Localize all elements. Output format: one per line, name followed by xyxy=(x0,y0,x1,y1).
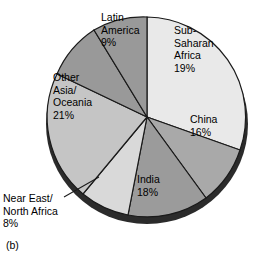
pie-chart-figure: Sub- Saharan Africa 19% China 16% India … xyxy=(0,0,263,265)
pie-label-near-east-north-africa: Near East/ North Africa 8% xyxy=(3,192,58,230)
pie-label-sub-saharan-africa: Sub- Saharan Africa 19% xyxy=(174,24,214,74)
figure-caption: (b) xyxy=(6,239,19,251)
pie-label-latin-america: Latin America 9% xyxy=(101,11,140,49)
pie-label-china: China 16% xyxy=(190,113,217,138)
pie-label-other-asia-oceania: Other Asia/ Oceania 21% xyxy=(53,71,92,121)
pie-label-india: India 18% xyxy=(137,173,160,198)
